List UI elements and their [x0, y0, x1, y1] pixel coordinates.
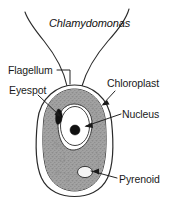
label-flagellum: Flagellum	[8, 65, 53, 76]
leader-flagellum	[57, 70, 70, 84]
label-pyrenoid: Pyrenoid	[119, 174, 160, 185]
nucleolus-dot	[70, 125, 80, 135]
pyrenoid-body	[78, 166, 93, 177]
label-nucleus: Nucleus	[122, 109, 159, 120]
chlamydomonas-diagram: Chlamydomonas Flagellum Eyespot Chloropl…	[0, 0, 173, 214]
eyespot-stigma	[56, 109, 62, 124]
leader-chloroplast	[103, 91, 115, 104]
label-eyespot: Eyespot	[9, 85, 46, 96]
figure-title: Chlamydomonas	[49, 18, 130, 29]
label-chloroplast: Chloroplast	[107, 78, 159, 89]
